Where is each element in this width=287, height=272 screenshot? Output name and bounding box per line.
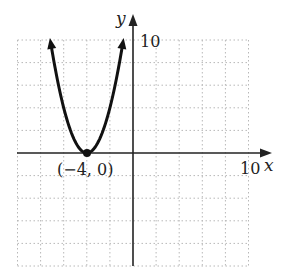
x-axis [17,149,272,158]
graph-canvas: y 10 x 10 (−4, 0) [0,0,287,272]
x-tick-label: 10 [240,159,260,178]
y-axis [129,14,138,266]
vertex-point [83,149,91,157]
x-axis-label: x [264,155,274,175]
y-axis-arrow-icon [129,14,138,26]
vertex-label: (−4, 0) [57,160,113,179]
y-tick-label: 10 [140,32,160,51]
y-axis-label: y [115,8,126,28]
